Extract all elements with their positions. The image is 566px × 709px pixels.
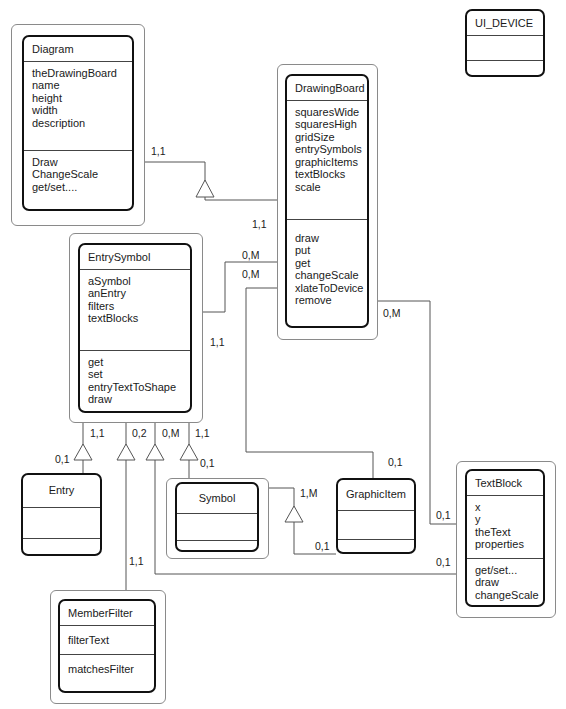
method: draw xyxy=(88,393,182,406)
method: ChangeScale xyxy=(32,168,124,181)
ui-device-class[interactable]: UI_DEVICE xyxy=(465,9,545,77)
method: entryTextToShape xyxy=(88,381,182,394)
triangle-icon xyxy=(146,444,164,460)
entrysymbol-class[interactable]: EntrySymbol aSymbol anEntry filters text… xyxy=(78,243,192,413)
methods-section xyxy=(338,539,414,556)
attribute: graphicItems xyxy=(295,156,359,169)
multiplicity-label: 1,1 xyxy=(195,427,210,439)
triangle-icon xyxy=(117,444,135,460)
methods-section xyxy=(23,538,100,557)
multiplicity-label: 1,1 xyxy=(129,555,144,567)
attribute: squaresHigh xyxy=(295,118,359,131)
class-name: DrawingBoard xyxy=(287,76,367,101)
methods-section: Draw ChangeScale get/set.... xyxy=(24,150,132,199)
class-name: Entry xyxy=(23,475,100,508)
attribute: gridSize xyxy=(295,131,359,144)
method: set xyxy=(88,368,182,381)
multiplicity-label: 1,M xyxy=(300,487,318,499)
diagram-class[interactable]: Diagram theDrawingBoard name height widt… xyxy=(22,35,134,211)
methods-section xyxy=(177,540,257,555)
class-name: GraphicItem xyxy=(338,480,414,511)
method: changeScale xyxy=(475,589,535,602)
attribute: filters xyxy=(88,300,182,313)
methods-section: get/set... draw changeScale xyxy=(467,558,543,607)
multiplicity-label: 1,1 xyxy=(90,427,105,439)
attributes-section: filterText xyxy=(60,626,154,655)
methods-section: draw put get changeScale xlateToDevice r… xyxy=(287,219,367,312)
attribute: entrySymbols xyxy=(295,143,359,156)
multiplicity-label: 0,M xyxy=(383,307,401,319)
triangle-icon xyxy=(180,444,198,460)
attribute: squaresWide xyxy=(295,106,359,119)
method: remove xyxy=(295,294,359,307)
attribute: width xyxy=(32,104,124,117)
attribute: name xyxy=(32,79,124,92)
attribute: height xyxy=(32,92,124,105)
method: xlateToDevice xyxy=(295,282,359,295)
multiplicity-label: 0,1 xyxy=(200,457,215,469)
multiplicity-label: 0,1 xyxy=(55,453,70,465)
multiplicity-label: 0,1 xyxy=(315,540,330,552)
multiplicity-label: 0,M xyxy=(242,268,260,280)
class-name: EntrySymbol xyxy=(80,245,190,270)
multiplicity-label: 1,1 xyxy=(210,336,225,348)
attribute: y xyxy=(475,513,535,526)
method: Draw xyxy=(32,156,124,169)
class-name: Symbol xyxy=(177,484,257,514)
attribute: textBlocks xyxy=(295,168,359,181)
methods-section xyxy=(467,60,543,77)
attribute: theText xyxy=(475,526,535,539)
multiplicity-label: 1,1 xyxy=(151,145,166,157)
entry-class[interactable]: Entry xyxy=(21,473,102,556)
multiplicity-label: 0,1 xyxy=(436,556,451,568)
method: changeScale xyxy=(295,269,359,282)
attribute: scale xyxy=(295,181,359,194)
attribute: textBlocks xyxy=(88,312,182,325)
multiplicity-label: 0,2 xyxy=(132,427,147,439)
graphicitem-class[interactable]: GraphicItem xyxy=(336,478,416,554)
triangle-icon xyxy=(74,444,92,460)
multiplicity-label: 0,M xyxy=(162,427,180,439)
attributes-section xyxy=(338,511,414,539)
attribute: aSymbol xyxy=(88,275,182,288)
multiplicity-label: 0,1 xyxy=(436,509,451,521)
attributes-section xyxy=(23,508,100,538)
attribute: description xyxy=(32,117,124,130)
class-name: UI_DEVICE xyxy=(467,11,543,36)
attributes-section xyxy=(467,36,543,60)
attribute: x xyxy=(475,501,535,514)
class-name: TextBlock xyxy=(467,471,543,496)
method: draw xyxy=(475,576,535,589)
attributes-section xyxy=(177,514,257,540)
method: put xyxy=(295,244,359,257)
attribute: filterText xyxy=(68,634,146,647)
triangle-icon xyxy=(196,180,214,197)
method: matchesFilter xyxy=(68,663,146,676)
triangle-icon xyxy=(285,506,303,522)
symbol-class[interactable]: Symbol xyxy=(175,482,259,552)
method: get/set.... xyxy=(32,181,124,194)
textblock-class[interactable]: TextBlock x y theText properties get/set… xyxy=(465,469,545,607)
multiplicity-label: 1,1 xyxy=(252,218,267,230)
attribute: properties xyxy=(475,538,535,551)
attributes-section: theDrawingBoard name height width descri… xyxy=(24,62,132,150)
attribute: anEntry xyxy=(88,287,182,300)
attributes-section: squaresWide squaresHigh gridSize entrySy… xyxy=(287,101,367,219)
multiplicity-label: 0,M xyxy=(242,249,260,261)
methods-section: matchesFilter xyxy=(60,654,154,681)
attributes-section: x y theText properties xyxy=(467,496,543,558)
methods-section: get set entryTextToShape draw xyxy=(80,350,190,411)
drawingboard-class[interactable]: DrawingBoard squaresWide squaresHigh gri… xyxy=(285,74,369,328)
method: get xyxy=(88,356,182,369)
method: draw xyxy=(295,232,359,245)
attribute: theDrawingBoard xyxy=(32,67,124,80)
class-name: MemberFilter xyxy=(60,601,154,626)
attributes-section: aSymbol anEntry filters textBlocks xyxy=(80,270,190,350)
class-name: Diagram xyxy=(24,37,132,62)
method: get/set... xyxy=(475,564,535,577)
multiplicity-label: 0,1 xyxy=(388,456,403,468)
method: get xyxy=(295,257,359,270)
memberfilter-class[interactable]: MemberFilter filterText matchesFilter xyxy=(58,599,156,693)
